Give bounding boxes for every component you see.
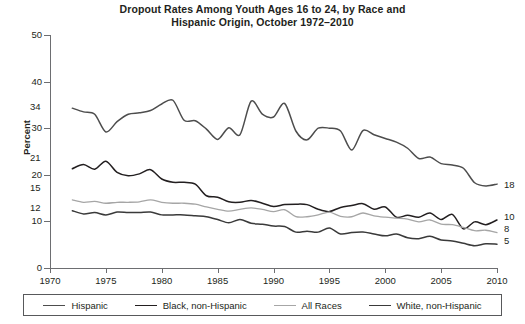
legend-swatch-line-icon bbox=[369, 305, 391, 306]
chart-container: Dropout Rates Among Youth Ages 16 to 24,… bbox=[0, 0, 525, 324]
start-label-black: 21 bbox=[30, 153, 41, 162]
series-line-black-non-hispanic bbox=[72, 161, 497, 229]
legend-label: Black, non-Hispanic bbox=[163, 300, 247, 311]
chart-legend: HispanicBlack, non-HispanicAll RacesWhit… bbox=[23, 294, 502, 316]
series-line-white-non-hispanic bbox=[72, 211, 497, 246]
end-label-hispanic: 18 bbox=[504, 180, 515, 189]
end-label-white: 5 bbox=[504, 236, 509, 245]
legend-label: Hispanic bbox=[71, 300, 107, 311]
end-label-all-races: 8 bbox=[504, 224, 509, 233]
legend-swatch-line-icon bbox=[274, 305, 296, 306]
start-label-white: 12 bbox=[30, 203, 41, 212]
legend-swatch-line-icon bbox=[135, 305, 157, 306]
start-label-all-races: 15 bbox=[30, 183, 41, 192]
end-label-black: 10 bbox=[504, 212, 515, 221]
series-line-hispanic bbox=[72, 100, 497, 186]
legend-label: White, non-Hispanic bbox=[397, 300, 482, 311]
start-label-hispanic: 34 bbox=[30, 102, 41, 111]
legend-item-white-non-hispanic[interactable]: White, non-Hispanic bbox=[369, 300, 482, 311]
legend-item-black-non-hispanic[interactable]: Black, non-Hispanic bbox=[135, 300, 247, 311]
legend-label: All Races bbox=[302, 300, 342, 311]
plot-lines bbox=[0, 0, 525, 324]
legend-item-all-races[interactable]: All Races bbox=[274, 300, 342, 311]
legend-swatch-line-icon bbox=[43, 305, 65, 306]
legend-item-hispanic[interactable]: Hispanic bbox=[43, 300, 107, 311]
